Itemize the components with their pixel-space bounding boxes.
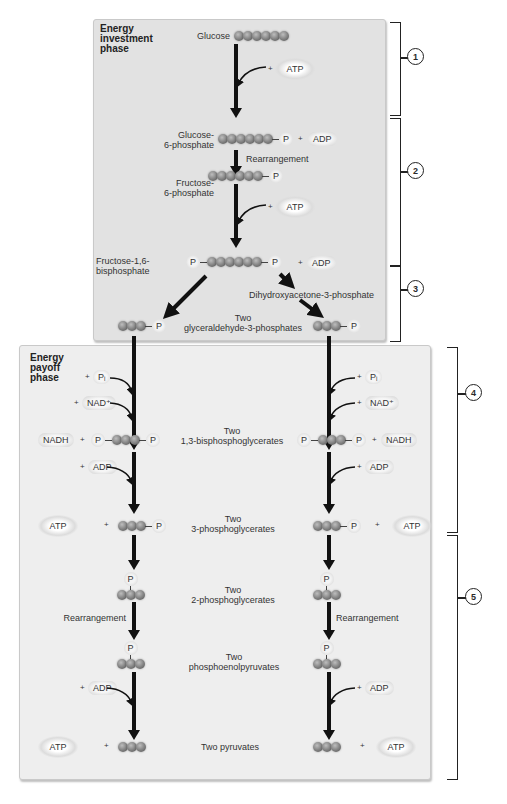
plus-sign: + <box>372 435 377 444</box>
arrow-head <box>323 730 335 740</box>
plus-sign: + <box>360 741 365 750</box>
pyruvate-label: Two pyruvates <box>185 742 275 752</box>
plus-sign: + <box>80 462 85 471</box>
arrow-shaft <box>234 184 238 240</box>
nadh-pill: NADH <box>381 433 417 447</box>
arrow-shaft <box>327 602 331 632</box>
plus-sign: + <box>80 435 85 444</box>
adp-pill: ADP <box>88 460 117 474</box>
nad-pill: NAD⁺ <box>365 396 399 410</box>
investment-phase-label: Energy investment phase <box>100 24 153 54</box>
arrow-head <box>323 560 335 570</box>
step-5-bracket <box>447 535 458 780</box>
pi-pill: Pᵢ <box>93 370 110 384</box>
pep-right-molecule: P <box>313 641 340 669</box>
nad-pill: NAD⁺ <box>82 396 116 410</box>
arrow-head <box>230 238 242 248</box>
nadh-pill: NADH <box>38 433 74 447</box>
step-2-bracket <box>390 118 401 266</box>
glucose-label: Glucose <box>160 31 230 41</box>
plus-sign: + <box>80 683 85 692</box>
pg3-left-molecule: P <box>118 520 166 532</box>
bpg-label: Two 1,3-bisphosphoglycerates <box>178 426 286 446</box>
g3p-right-molecule: P <box>313 320 361 332</box>
g3p-left-molecule: P <box>118 320 166 332</box>
step-3-bracket <box>390 266 401 342</box>
arrow-head <box>323 504 335 514</box>
pi-pill: Pᵢ <box>365 370 382 384</box>
plus-sign: + <box>357 398 362 407</box>
pyruvate-left-molecule <box>118 741 145 753</box>
plus-sign: + <box>375 520 380 529</box>
step-1-marker: 1 <box>407 48 424 65</box>
arrow-shaft <box>132 336 136 442</box>
dhap-label: Dihydroxyacetone-3-phosphate <box>249 290 374 300</box>
f6p-label: Fructose- 6-phosphate <box>140 178 214 198</box>
step-1-bracket <box>390 22 401 116</box>
atp-burst: ATP <box>38 736 78 758</box>
plus-sign: + <box>74 398 79 407</box>
plus-sign: + <box>298 134 303 143</box>
atp-burst: ATP <box>275 58 315 80</box>
pep-left-molecule: P <box>117 641 144 669</box>
atp-burst: ATP <box>38 515 78 537</box>
arrow-head <box>323 630 335 640</box>
pg2-right-molecule: P <box>313 572 340 600</box>
pg2-left-molecule: P <box>117 572 144 600</box>
arrow-head <box>230 108 242 118</box>
atp-burst: ATP <box>392 515 432 537</box>
plus-sign: + <box>357 372 362 381</box>
atp-burst: ATP <box>275 196 315 218</box>
g3p-label: Two glyceraldehyde-3-phosphates <box>178 313 308 333</box>
f16bp-label: Fructose-1,6- bisphosphate <box>96 256 150 276</box>
f16bp-molecule: P P <box>186 256 282 268</box>
pg3-label: Two 3-phosphoglycerates <box>178 514 288 534</box>
energy-payoff-panel <box>19 345 431 780</box>
arrow-shaft <box>132 602 136 632</box>
arrow-shaft <box>132 672 136 732</box>
atp-burst: ATP <box>376 736 416 758</box>
pyruvate-right-molecule <box>313 741 340 753</box>
payoff-phase-label: Energy payoff phase <box>30 353 64 383</box>
plus-sign: + <box>268 64 273 73</box>
arrow-head <box>128 730 140 740</box>
arrow-shaft <box>327 452 331 506</box>
g6p-label: Glucose- 6-phosphate <box>150 130 214 150</box>
arrow-shaft <box>132 452 136 506</box>
adp-pill: ADP <box>365 681 394 695</box>
adp-pill: ADP <box>88 681 117 695</box>
plus-sign: + <box>104 520 109 529</box>
step-3-marker: 3 <box>407 280 424 297</box>
step-2-marker: 2 <box>407 162 424 179</box>
pg2-label: Two 2-phosphoglycerates <box>178 585 288 605</box>
arrow-shaft <box>327 672 331 732</box>
arrow-head <box>128 504 140 514</box>
pg3-right-molecule: P <box>313 520 361 532</box>
arrow-shaft <box>327 535 331 562</box>
arrow-head <box>128 630 140 640</box>
plus-sign: + <box>104 741 109 750</box>
arrow-head <box>128 560 140 570</box>
adp-pill: ADP <box>308 132 337 146</box>
rearrangement-label: Rearrangement <box>40 613 126 623</box>
f6p-molecule: P <box>208 170 283 182</box>
plus-sign: + <box>357 462 362 471</box>
pep-label: Two phosphoenolpyruvates <box>176 652 292 672</box>
rearrangement-label: Rearrangement <box>336 613 399 623</box>
rearrangement-label: Rearrangement <box>246 154 309 164</box>
g6p-molecule: P <box>218 133 293 145</box>
plus-sign: + <box>85 372 90 381</box>
glucose-molecule <box>234 30 288 42</box>
bpg-left-molecule: P P <box>91 434 160 446</box>
plus-sign: + <box>268 202 273 211</box>
arrow-shaft <box>132 535 136 562</box>
bpg-right-molecule: P P <box>297 434 366 446</box>
plus-sign: + <box>298 258 303 267</box>
plus-sign: + <box>357 683 362 692</box>
arrow-shaft <box>234 44 238 110</box>
step-4-marker: 4 <box>465 384 482 401</box>
step-4-bracket <box>447 347 458 533</box>
step-5-marker: 5 <box>465 588 482 605</box>
arrow-shaft <box>327 336 331 442</box>
adp-pill: ADP <box>307 256 336 270</box>
